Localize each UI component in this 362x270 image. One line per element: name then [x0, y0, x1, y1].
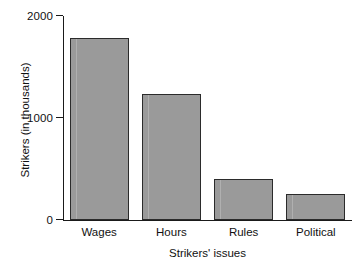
bar-hours — [142, 94, 201, 220]
bar-rules — [214, 179, 273, 220]
y-axis-tick-label-2000: 2000 — [27, 11, 53, 23]
plot-area — [63, 16, 352, 220]
x-axis-label-rules: Rules — [208, 226, 280, 239]
x-axis-title: Strikers' issues — [63, 247, 352, 259]
x-axis-label-political: Political — [280, 226, 352, 239]
y-axis-tick-1000 — [56, 117, 63, 118]
x-axis-label-wages: Wages — [63, 226, 135, 239]
y-axis-tick-2000 — [56, 15, 63, 16]
x-axis-label-hours: Hours — [135, 226, 207, 239]
y-axis-title: Strikers (in thousands) — [19, 40, 31, 200]
bar-wages — [70, 38, 129, 220]
y-axis-tick-label-0: 0 — [47, 215, 54, 227]
x-axis-line — [63, 220, 352, 221]
y-axis-tick-0 — [56, 219, 63, 220]
bar-political — [286, 194, 345, 220]
bar-chart-figure: 2000 1000 0 Wages Hours Rules Political … — [0, 0, 362, 270]
